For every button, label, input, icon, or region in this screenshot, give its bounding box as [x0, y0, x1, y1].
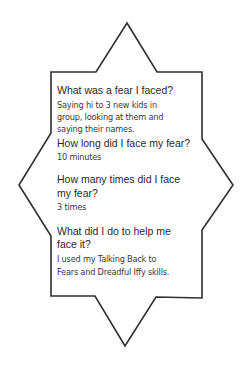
question-how-long: How long did I face my fear? [57, 137, 190, 150]
question-fear-faced: What was a fear I faced? [57, 84, 173, 97]
question-what-helped-line-1: What did I do to help me [57, 225, 171, 238]
answer-fear-faced-line-1: Saying hi to 3 new kids in [57, 99, 157, 112]
question-what-helped-line-2: face it? [57, 238, 91, 251]
question-how-many-times-line-1: How many times did I face [57, 173, 180, 186]
answer-fear-faced-line-2: group, looking at them and [57, 111, 163, 124]
answer-how-long: 10 minutes [57, 151, 101, 164]
question-how-many-times-line-2: my fear? [57, 187, 98, 200]
answer-how-many-times: 3 times [57, 201, 86, 214]
answer-what-helped-line-1: I used my Talking Back to [57, 253, 156, 266]
answer-fear-faced-line-3: saying their names. [57, 123, 134, 136]
answer-what-helped-line-2: Fears and Dreadful Iffy skills. [57, 266, 169, 279]
